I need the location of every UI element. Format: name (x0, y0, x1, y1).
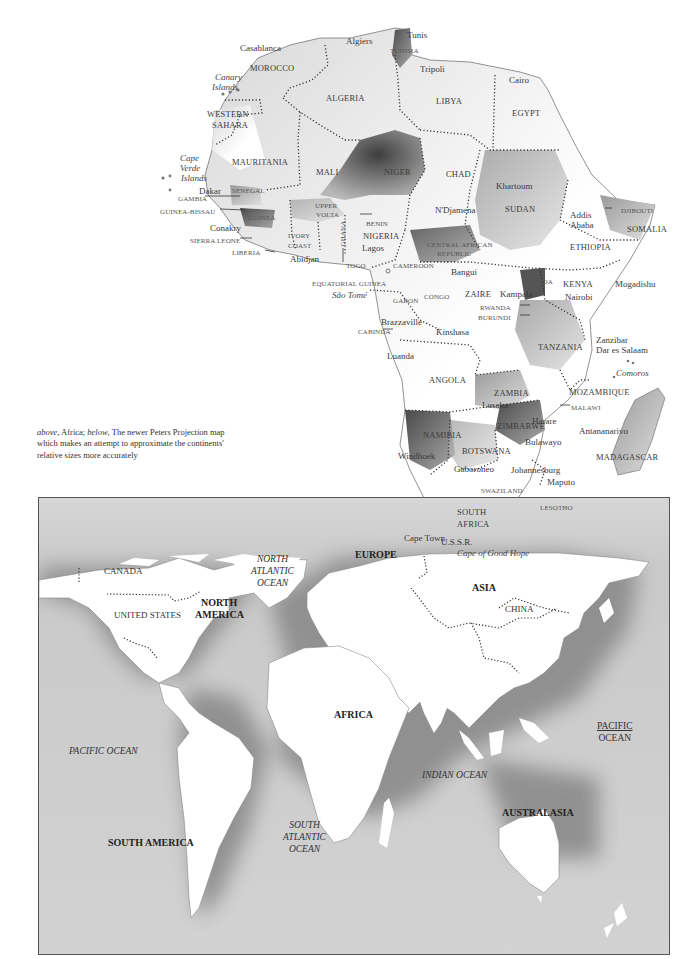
country-label: ANGOLA (429, 376, 466, 385)
country-label: MALI (316, 168, 339, 177)
city-label: Cape Town (404, 534, 445, 543)
country-label: WESTERN (207, 110, 249, 119)
continent-label: ASIA (472, 582, 496, 595)
city-label: Gaboroneo (454, 465, 494, 474)
continent-label: EUROPE (355, 549, 397, 562)
country-label: SUDAN (505, 205, 535, 214)
small-country-label: TOGO (346, 263, 366, 270)
country-label: BENIN (366, 221, 388, 228)
city-label: Kampala (500, 290, 532, 299)
city-label: Kinshasa (436, 328, 469, 337)
country-label: LIBYA (436, 97, 462, 106)
city-label: Brazzaville (381, 318, 422, 327)
continent-label: AUSTRALASIA (502, 807, 574, 820)
city-label: Bangui (451, 268, 477, 277)
city-label: Khartoum (496, 182, 533, 191)
country-label: VOLTA (316, 212, 339, 219)
continent-label: NORTH (201, 597, 237, 610)
city-label: Ababa (570, 221, 594, 230)
city-label: Lusaka (482, 401, 508, 410)
country-label: GUINEA (248, 215, 275, 222)
caption-text-1: , Africa; (57, 427, 87, 437)
country-label: ZAMBIA (494, 389, 529, 398)
city-label: Algiers (346, 37, 373, 46)
ocean-label-south-atlantic: SOUTH ATLANTIC OCEAN (283, 820, 326, 856)
city-label: Antananarivo (579, 427, 628, 436)
country-label: SOMALIA (627, 225, 667, 234)
ocean-label-pacific-east: PACIFIC OCEAN (597, 721, 633, 745)
country-label: CHINA (505, 604, 534, 615)
island-label: São Tomé (332, 291, 367, 300)
continent-label: AFRICA (334, 709, 373, 722)
cape-label: Cape of Good Hope (457, 549, 529, 558)
city-label: Casablanca (240, 44, 281, 53)
country-label: EGYPT (512, 109, 540, 118)
country-label: MAURITANIA (232, 158, 288, 167)
island-label: Islands (181, 174, 207, 183)
ocean-label-indian: INDIAN OCEAN (422, 770, 487, 782)
city-label: Addis (570, 211, 592, 220)
country-label: CANADA (104, 566, 143, 577)
small-country-label: DJIBOUTI (621, 208, 653, 215)
ocean-label-pacific-west: PACIFIC OCEAN (69, 746, 138, 758)
city-label: Maputo (547, 478, 575, 487)
island-label: Cape (180, 154, 199, 163)
continent-label: SOUTH AMERICA (108, 837, 194, 850)
ocean-label-north-atlantic: NORTH ATLANTIC OCEAN (251, 554, 294, 590)
country-label: UGANDA (522, 279, 553, 286)
small-country-label: MALAWI (571, 405, 601, 412)
city-label: Tripoli (420, 65, 445, 74)
city-label: Lagos (362, 244, 384, 253)
small-country-label: EQUATORIAL GUINEA (312, 281, 386, 288)
country-label: REPUBLIC (437, 251, 472, 258)
small-country-label: GUINEA-BISSAU (160, 209, 215, 216)
small-country-label: LESOTHO (540, 505, 573, 512)
country-label: TUNISIA (390, 48, 419, 55)
country-label: GABON (393, 298, 418, 305)
country-label: U.S.S.R. (441, 537, 473, 548)
small-country-label: SIERRA LEONE (190, 238, 240, 245)
city-label: Conakry (210, 224, 241, 233)
caption-italic-below: below (87, 427, 107, 437)
city-label: Cairo (509, 76, 529, 85)
country-label: CONGO (424, 294, 449, 301)
city-label: Windhoek (398, 452, 435, 461)
small-country-label: CABINDA (358, 329, 391, 336)
city-label: Mogadishu (615, 280, 656, 289)
country-label: SOUTH (457, 508, 486, 517)
small-country-label: RWANDA (480, 305, 511, 312)
country-label: AFRICA (457, 520, 489, 529)
country-label: SENEGAL (232, 188, 265, 195)
island-label: Islands (212, 83, 238, 92)
country-label: BOTSWANA (462, 447, 511, 456)
city-label: Zanzibar (596, 336, 628, 345)
country-label: TANZANIA (538, 343, 583, 352)
caption-italic-above: above (37, 427, 57, 437)
small-country-label: GAMBIA (178, 196, 207, 203)
country-label: MOROCCO (250, 64, 294, 73)
africa-map: MOROCCO ALGERIA TUNISIA LIBYA EGYPT WEST… (0, 0, 698, 500)
city-label: N'Djamena (435, 206, 476, 215)
city-label: Dar es Salaam (596, 346, 648, 355)
map-caption: above, Africa; below, The newer Peters P… (37, 427, 237, 461)
city-label: Johannesburg (511, 466, 560, 475)
city-label: Tunis (407, 31, 427, 40)
city-label: Bulawayo (525, 438, 562, 447)
city-label: Abidjan (290, 255, 319, 264)
small-country-label: SWAZILAND (481, 488, 523, 495)
city-label: Luanda (387, 352, 414, 361)
peters-projection-map: NORTH AMERICA EUROPE ASIA AFRICA SOUTH A… (38, 497, 670, 955)
country-label: ALGERIA (326, 94, 365, 103)
island-label: Verde (180, 164, 200, 173)
small-country-label: LIBERIA (232, 250, 260, 257)
country-label: KENYA (563, 280, 593, 289)
country-label: UPPER (315, 203, 337, 210)
country-label: MOZAMBIQUE (569, 388, 630, 397)
country-label: NIGERIA (363, 232, 399, 241)
country-label: SAHARA (212, 121, 248, 130)
small-country-label: BURUNDI (478, 315, 511, 322)
country-label: NAMIBIA (423, 431, 462, 440)
country-label: ETHIOPIA (570, 243, 611, 252)
country-label: MADAGASCAR (596, 453, 658, 462)
island-label: Canary (215, 73, 242, 82)
